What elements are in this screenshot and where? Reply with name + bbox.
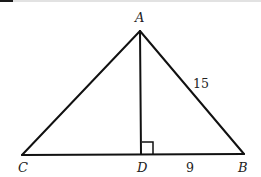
vertex-label-d: D (136, 160, 148, 175)
segment-ab (140, 31, 244, 154)
vertex-label-b: B (237, 160, 248, 175)
length-label-db: 9 (186, 160, 194, 175)
segment-ac (22, 31, 140, 155)
triangle-figure: A C D B 15 9 (0, 0, 261, 177)
vertex-label-a: A (134, 10, 144, 25)
right-angle-marker (142, 142, 153, 154)
segment-cb (22, 154, 244, 155)
diagram-canvas: A C D B 15 9 (0, 0, 261, 177)
vertex-label-c: C (18, 160, 28, 175)
length-label-ab: 15 (193, 76, 209, 91)
altitude-ad (140, 31, 141, 154)
